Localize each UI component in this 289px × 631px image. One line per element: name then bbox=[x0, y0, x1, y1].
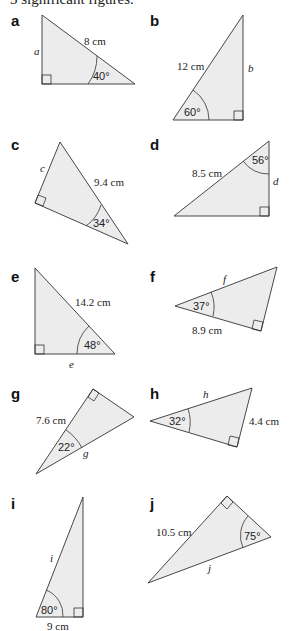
angle: 37° bbox=[193, 300, 210, 312]
side-given: 9 cm bbox=[47, 620, 69, 631]
triangle-f: f 8.9 cm f 37° bbox=[150, 267, 277, 336]
angle: 22° bbox=[58, 441, 75, 453]
triangle-h: h 4.4 cm h 32° bbox=[150, 385, 279, 447]
angle: 34° bbox=[93, 217, 110, 229]
triangle-e: e 14.2 cm e 48° bbox=[11, 268, 115, 370]
triangle-d: d 8.5 cm d 56° bbox=[150, 136, 279, 216]
angle: 80° bbox=[41, 604, 58, 616]
unknown-side: j bbox=[206, 562, 211, 574]
problem-label: j bbox=[149, 495, 154, 512]
side-given: 12 cm bbox=[177, 60, 205, 72]
triangle-a: a 8 cm a 40° bbox=[11, 12, 135, 84]
problem-label: h bbox=[150, 385, 159, 402]
side-given: 8.5 cm bbox=[192, 167, 222, 179]
angle: 60° bbox=[184, 106, 201, 118]
side-given: 4.4 cm bbox=[249, 415, 279, 427]
unknown-side: i bbox=[50, 552, 53, 564]
angle: 56° bbox=[252, 154, 269, 166]
problem-label: f bbox=[150, 268, 156, 285]
angle: 48° bbox=[84, 339, 101, 351]
unknown-side: b bbox=[248, 62, 254, 74]
angle: 75° bbox=[244, 530, 261, 542]
unknown-side: f bbox=[223, 273, 228, 285]
triangle-j: j 10.5 cm j 75° bbox=[148, 495, 271, 583]
unknown-side: c bbox=[40, 162, 45, 174]
problem-label: c bbox=[11, 136, 19, 153]
unknown-side: h bbox=[203, 388, 209, 400]
problem-label: i bbox=[11, 495, 15, 512]
side-given: 9.4 cm bbox=[94, 176, 124, 188]
problem-label: g bbox=[11, 385, 20, 402]
unknown-side: g bbox=[83, 447, 89, 459]
side-given: 7.6 cm bbox=[36, 414, 66, 426]
side-given: 14.2 cm bbox=[75, 296, 111, 308]
problem-label: d bbox=[150, 136, 159, 153]
triangle-c: c 9.4 cm c 34° bbox=[11, 136, 128, 244]
triangle-g: g 7.6 cm g 22° bbox=[11, 385, 134, 474]
unknown-side: e bbox=[69, 358, 74, 370]
angle: 40° bbox=[93, 70, 110, 82]
unknown-side: d bbox=[273, 175, 279, 187]
unknown-side: a bbox=[34, 45, 40, 57]
problem-label: a bbox=[11, 12, 20, 29]
triangle-b: b 12 cm b 60° bbox=[150, 12, 254, 120]
problem-label: b bbox=[150, 12, 159, 29]
problem-label: e bbox=[11, 268, 19, 285]
triangle-i: i 9 cm i 80° bbox=[11, 495, 83, 631]
triangles-figure: a 8 cm a 40° b 12 cm b 60° c 9.4 cm c 34… bbox=[0, 0, 289, 631]
side-given: 8.9 cm bbox=[192, 324, 222, 336]
side-given: 8 cm bbox=[84, 35, 106, 47]
angle: 32° bbox=[169, 415, 186, 427]
side-given: 10.5 cm bbox=[156, 526, 192, 538]
